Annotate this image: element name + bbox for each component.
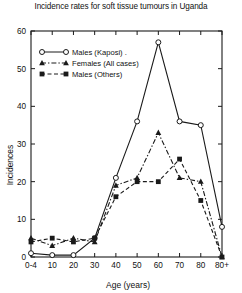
chart-legend: Males (Kaposi) .Females (All cases)Males…	[38, 44, 146, 82]
y-tick-label: 30	[17, 140, 27, 149]
legend-label: Females (All cases)	[72, 59, 139, 68]
legend-label: Males (Others)	[72, 70, 123, 79]
data-point	[113, 175, 118, 180]
data-point	[71, 253, 76, 258]
chart-container: Incidence rates for soft tissue tumours …	[0, 0, 242, 293]
x-tick-label: 70	[175, 261, 185, 270]
legend-marker	[64, 72, 69, 77]
data-point	[29, 251, 34, 256]
data-point	[220, 255, 225, 260]
x-tick-label: 30	[90, 261, 100, 270]
data-point	[71, 240, 76, 245]
data-point	[135, 179, 140, 184]
x-tick-label: 50	[133, 261, 143, 270]
y-tick-label: 50	[17, 65, 27, 74]
x-tick-label: 20	[69, 261, 79, 270]
x-tick-label: 60	[154, 261, 164, 270]
x-axis-label: Age (years)	[106, 280, 150, 290]
series-line-2	[31, 133, 222, 257]
data-point	[92, 236, 97, 241]
y-tick-label: 40	[17, 102, 27, 111]
legend-label: Males (Kaposi) .	[72, 48, 127, 57]
y-tick-label: 60	[17, 27, 27, 36]
data-point	[135, 119, 140, 124]
data-point	[50, 253, 55, 258]
x-tick-label: 80+	[215, 261, 229, 270]
x-tick-label: 0-4	[25, 261, 37, 270]
data-point	[113, 194, 118, 199]
y-axis-label: Incidences	[5, 145, 15, 186]
data-point	[220, 224, 225, 229]
y-tick-label: 20	[17, 178, 27, 187]
data-point	[29, 240, 34, 245]
series-line-3	[31, 159, 222, 257]
y-tick-label: 10	[17, 215, 27, 224]
x-tick-label: 80	[196, 261, 206, 270]
data-point	[155, 130, 161, 135]
data-point	[156, 40, 161, 45]
data-point	[198, 198, 203, 203]
data-point	[50, 236, 55, 241]
x-tick-label: 40	[111, 261, 121, 270]
legend-marker	[64, 50, 69, 55]
data-point	[177, 157, 182, 162]
legend-marker	[40, 50, 45, 55]
data-point	[177, 175, 183, 180]
chart-plot: 0102030405060 0-4102030405060708080+ Mal…	[0, 0, 242, 293]
data-point	[198, 179, 204, 184]
legend-marker	[40, 72, 45, 77]
x-tick-label: 10	[48, 261, 58, 270]
data-point	[177, 119, 182, 124]
data-point	[156, 179, 161, 184]
data-point	[198, 123, 203, 128]
